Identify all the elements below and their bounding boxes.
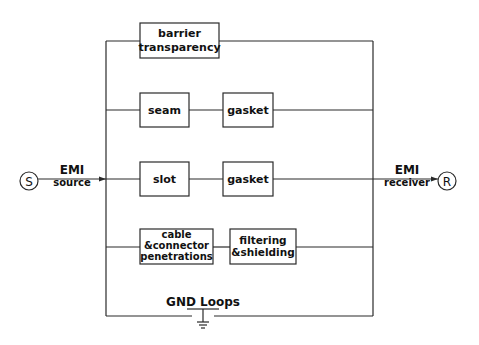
block-label: penetrations — [140, 251, 212, 262]
branch-seam: seam gasket — [106, 93, 373, 127]
emi-diagram: S EMI source barrier transparency seam g… — [0, 0, 479, 345]
block-label: &connector — [144, 240, 209, 251]
block-label: gasket — [227, 173, 269, 186]
gnd-loops-label: GND Loops — [166, 295, 240, 309]
source-circle-label: S — [25, 175, 33, 189]
ground-loop: GND Loops — [106, 295, 373, 328]
block-label: slot — [153, 173, 176, 186]
receiver-arrow-icon — [431, 177, 438, 182]
block-label: cable — [161, 229, 191, 240]
block-label: &shielding — [231, 246, 294, 258]
block-label: filtering — [239, 234, 286, 246]
receiver-subtitle: receiver — [384, 177, 430, 188]
ground-icon — [187, 309, 219, 328]
receiver-circle-label: R — [443, 175, 451, 189]
block-label: transparency — [138, 41, 220, 54]
branch-cable: cable &connector penetrations filtering … — [106, 229, 373, 264]
receiver-title: EMI — [395, 163, 420, 177]
emi-source: S EMI source — [20, 163, 91, 190]
emi-receiver: EMI receiver R — [384, 163, 456, 190]
source-title: EMI — [60, 163, 85, 177]
block-label: gasket — [227, 104, 269, 117]
block-label: barrier — [158, 27, 201, 40]
source-arrow-icon — [99, 177, 106, 182]
branch-barrier: barrier transparency — [106, 23, 373, 58]
block-label: seam — [148, 104, 181, 117]
